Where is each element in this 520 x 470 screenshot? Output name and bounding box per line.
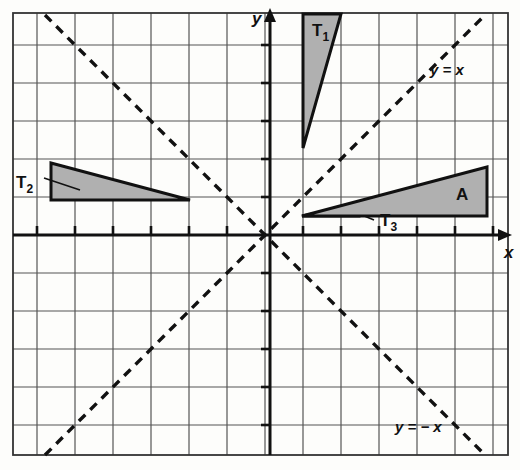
line-y-equals-minus-x-label: y = − x <box>394 418 442 435</box>
diagram-canvas: xyy = xy = − xT1T2T3A <box>0 0 520 470</box>
x-axis-label: x <box>503 243 515 262</box>
coordinate-diagram: xyy = xy = − xT1T2T3A <box>0 0 520 470</box>
triangle-T2 <box>51 163 190 200</box>
y-axis-arrow <box>264 8 276 22</box>
y-axis-label: y <box>251 9 263 28</box>
line-y-equals-x-label: y = x <box>429 61 464 78</box>
triangle-T2-label: T2 <box>16 173 33 196</box>
x-axis-arrow <box>498 229 512 241</box>
triangle-A-label: A <box>456 185 468 204</box>
